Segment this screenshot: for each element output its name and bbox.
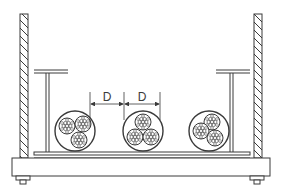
cable-bundle-right (189, 111, 229, 151)
cable-bundle-middle (123, 111, 163, 151)
cable-tray (34, 152, 250, 158)
dimension-label-d-1: D (103, 90, 112, 104)
right-wall (254, 14, 262, 158)
left-bolt (16, 176, 30, 184)
right-bolt (250, 176, 264, 184)
left-wall (20, 14, 28, 158)
base-plate (12, 158, 270, 176)
cable-layout-diagram: D D (0, 0, 284, 190)
dimension-label-d-2: D (138, 90, 147, 104)
cable-bundle-left (55, 111, 95, 151)
